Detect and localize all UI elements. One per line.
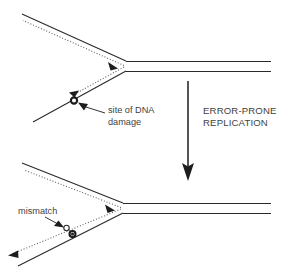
mismatch-label: mismatch <box>18 206 57 218</box>
dna-replication-diagram <box>0 0 282 273</box>
mismatch-open-circle-marker <box>64 225 69 230</box>
mismatch-label-leader-arrowhead <box>54 221 64 228</box>
bottom-fork-upper-strand-arrowhead <box>105 205 115 214</box>
bottom-fork-lower-parental-strand <box>18 213 123 266</box>
mismatch-filled-circle-core <box>71 233 74 236</box>
top-fork-upper-daughter-strand <box>23 21 124 66</box>
top-fork-lower-daughter-strand <box>73 67 124 95</box>
mismatch-label-leader-line <box>45 217 58 224</box>
error-prone-replication-label: ERROR-PRONE REPLICATION <box>203 105 277 130</box>
top-fork-upper-parental-strand <box>22 14 126 61</box>
process-label-line-1: ERROR-PRONE <box>203 105 277 117</box>
damage-label-leader-arrowhead <box>78 103 88 111</box>
site-of-dna-damage-marker <box>71 97 77 103</box>
error-prone-replication-arrow <box>182 81 194 181</box>
site-of-dna-damage-label: site of DNA damage <box>108 105 154 129</box>
bottom-fork-upper-daughter-strand <box>24 170 121 208</box>
damage-label-line-1: site of DNA <box>108 105 154 117</box>
damage-label-line-2: damage <box>108 117 154 129</box>
bottom-fork-lower-strand-arrowhead <box>8 251 19 259</box>
process-label-line-2: REPLICATION <box>203 117 277 129</box>
damage-label-leader-line <box>86 107 105 113</box>
figure-canvas: site of DNA damage ERROR-PRONE REPLICATI… <box>0 0 282 273</box>
bottom-fork-upper-parental-strand <box>22 163 123 203</box>
top-fork-upper-strand-arrowhead <box>108 62 118 71</box>
